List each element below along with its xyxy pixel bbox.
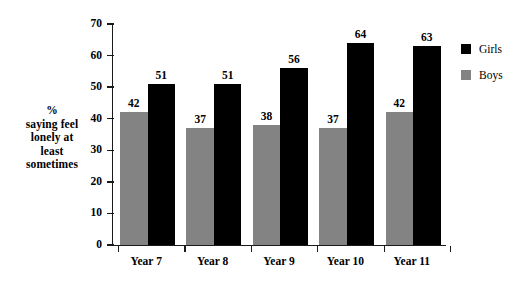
y-axis-tick-label: 30 [76, 144, 102, 156]
x-axis-tick [118, 246, 119, 252]
bar-chart: % saying feel lonely at least sometimes … [0, 0, 529, 281]
legend-label: Girls [479, 43, 502, 55]
y-axis-tick-label: 20 [76, 176, 102, 188]
y-axis-tick-label: 10 [76, 207, 102, 219]
x-axis-tick [450, 246, 451, 252]
bar-boys-year-11[interactable] [386, 112, 414, 245]
y-axis-title-line: sometimes [6, 158, 98, 172]
y-axis-tick-label: 0 [76, 239, 102, 251]
x-axis-category-label: Year 9 [241, 255, 317, 267]
x-axis-category-label: Year 7 [108, 255, 184, 267]
bar-value-label: 37 [318, 114, 348, 126]
bar-boys-year-9[interactable] [253, 125, 281, 245]
bar-boys-year-8[interactable] [186, 128, 214, 245]
legend-swatch-icon [461, 70, 471, 80]
bar-value-label: 42 [119, 98, 149, 110]
x-axis-tick [184, 246, 185, 252]
y-axis-tick-label: 40 [76, 113, 102, 125]
bar-value-label: 37 [185, 114, 215, 126]
x-axis-tick [317, 246, 318, 252]
bar-value-label: 51 [146, 70, 176, 82]
bar-girls-year-8[interactable] [214, 84, 242, 245]
legend: Girls Boys [461, 36, 503, 88]
y-axis-tick-label: 60 [76, 50, 102, 62]
legend-swatch-icon [461, 44, 471, 54]
bar-value-label: 38 [252, 111, 282, 123]
x-axis-tick [251, 246, 252, 252]
legend-item-girls[interactable]: Girls [461, 36, 503, 62]
bar-value-label: 64 [345, 29, 375, 41]
x-axis-category-label: Year 10 [307, 255, 383, 267]
y-axis-tick-label: 70 [76, 18, 102, 30]
bar-girls-year-9[interactable] [280, 68, 308, 245]
bar-girls-year-11[interactable] [413, 46, 441, 245]
plot-area: 42513751385637644263 [113, 24, 445, 245]
bar-value-label: 56 [279, 54, 309, 66]
bar-boys-year-10[interactable] [319, 128, 347, 245]
bar-girls-year-10[interactable] [347, 43, 375, 245]
y-axis-tick-label: 50 [76, 81, 102, 93]
bar-girls-year-7[interactable] [148, 84, 176, 245]
bar-value-label: 63 [412, 32, 442, 44]
y-axis-title-line: lonely at [6, 131, 98, 145]
x-axis-category-label: Year 11 [374, 255, 450, 267]
bar-value-label: 51 [213, 70, 243, 82]
legend-item-boys[interactable]: Boys [461, 62, 503, 88]
bar-value-label: 42 [384, 98, 414, 110]
x-axis-tick [384, 246, 385, 252]
bar-boys-year-7[interactable] [120, 112, 148, 245]
x-axis-category-label: Year 8 [175, 255, 251, 267]
legend-label: Boys [479, 69, 503, 81]
